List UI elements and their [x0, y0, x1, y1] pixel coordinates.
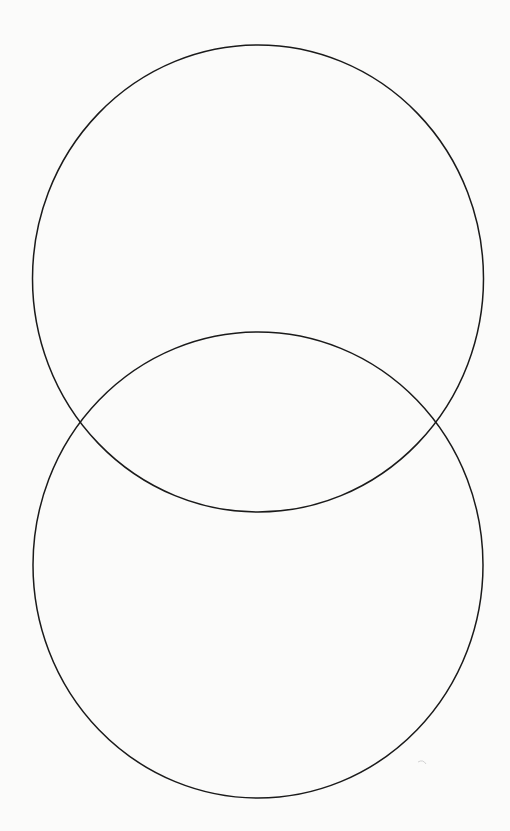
- top-circle: [33, 45, 484, 512]
- venn-diagram-canvas: [0, 0, 510, 831]
- venn-diagram: [0, 0, 510, 831]
- paper-speck-mark: [418, 761, 426, 764]
- bottom-circle: [33, 332, 483, 798]
